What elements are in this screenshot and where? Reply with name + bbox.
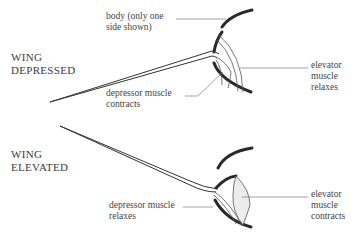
body-wall-upper [222, 10, 252, 27]
title-line: DEPRESSED [11, 64, 75, 77]
title-line: ELEVATED [11, 161, 68, 174]
label-elevator-contracts: elevator muscle contracts [311, 189, 345, 222]
wing-elevated [60, 126, 218, 189]
title-wing-elevated: WING ELEVATED [11, 148, 68, 174]
label-line: elevator [311, 189, 345, 200]
title-wing-depressed: WING DEPRESSED [11, 51, 75, 77]
label-line: elevator [311, 60, 342, 71]
body-wall-pivot-upper [214, 32, 222, 52]
label-line: depressor muscle [106, 88, 172, 99]
label-line: relaxes [109, 211, 175, 222]
label-line: muscle [311, 200, 345, 211]
elevator-muscle-contracted [233, 176, 250, 225]
label-line: contracts [311, 211, 345, 222]
panel-wing-elevated [60, 126, 308, 227]
body-wall-pivot-upper-2 [216, 176, 236, 188]
label-depressor-relaxes: depressor muscle relaxes [109, 200, 175, 222]
panel-wing-depressed [50, 10, 308, 102]
wing-mechanism-diagram [0, 0, 362, 234]
label-line: body (only one [106, 11, 164, 22]
label-line: muscle [311, 71, 342, 82]
label-line: depressor muscle [109, 200, 175, 211]
title-line: WING [11, 148, 68, 161]
title-line: WING [11, 51, 75, 64]
body-wall-upper-2 [218, 148, 252, 168]
label-depressor-contracts: depressor muscle contracts [106, 88, 172, 110]
leader-depressor-top [185, 72, 223, 96]
label-line: side shown) [106, 22, 164, 33]
label-elevator-relaxes: elevator muscle relaxes [311, 60, 342, 93]
label-line: relaxes [311, 82, 342, 93]
label-line: contracts [106, 99, 172, 110]
label-body: body (only one side shown) [106, 11, 164, 33]
